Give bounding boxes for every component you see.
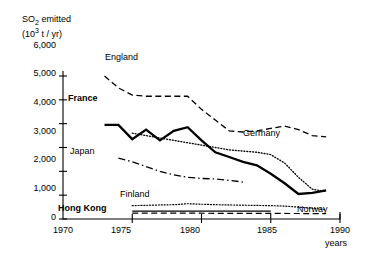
series-line-germany [132,133,326,191]
series-line-france [105,125,327,194]
series-line-norway [132,213,326,214]
axis-ticks [59,76,340,223]
data-series-group [105,76,327,214]
plot-area [0,0,371,264]
series-line-england [105,76,327,137]
series-line-japan [118,158,243,182]
series-line-finland [132,204,326,210]
so2-emissions-line-chart: SO2 emitted (103 t / yr) 6,000 5,000 4,0… [0,0,371,264]
